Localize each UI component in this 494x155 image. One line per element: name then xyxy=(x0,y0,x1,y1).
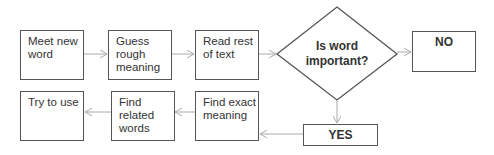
node-label: Try to use xyxy=(28,96,79,108)
node-guess-rough-meaning: Guess rough meaning xyxy=(108,30,172,80)
decision-label: Is word important? xyxy=(297,39,377,69)
node-label: Guess rough meaning xyxy=(116,35,160,73)
node-label: Meet new word xyxy=(28,35,78,60)
node-label: YES xyxy=(328,128,352,142)
node-find-exact-meaning: Find exact meaning xyxy=(195,91,259,141)
node-label: NO xyxy=(435,35,453,49)
node-read-rest-of-text: Read rest of text xyxy=(195,30,259,80)
flowchart: Meet new word Guess rough meaning Read r… xyxy=(0,0,494,155)
node-yes: YES xyxy=(303,124,378,146)
node-label: Find related words xyxy=(119,96,154,134)
node-label: Read rest of text xyxy=(203,35,253,60)
node-find-related-words: Find related words xyxy=(111,91,175,141)
node-meet-new-word: Meet new word xyxy=(20,30,84,80)
node-try-to-use: Try to use xyxy=(20,91,84,141)
node-no: NO xyxy=(412,31,476,72)
node-label: Find exact meaning xyxy=(203,96,256,121)
